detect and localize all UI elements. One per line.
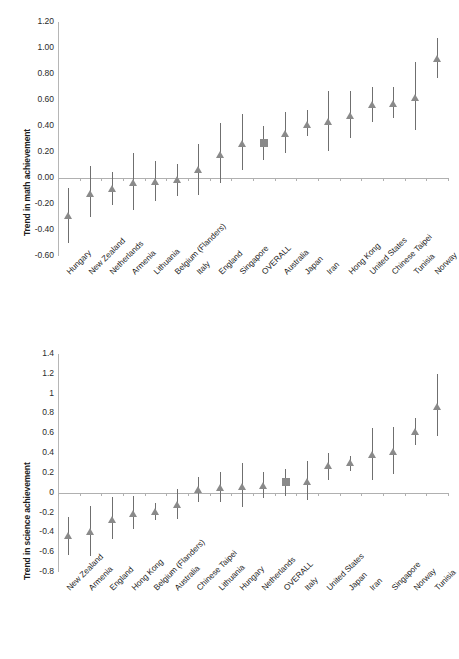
data-point-marker-triangle <box>303 478 311 485</box>
x-axis-tick <box>448 493 449 496</box>
x-axis-tick <box>210 178 211 181</box>
data-point-marker-triangle <box>433 55 441 62</box>
x-axis-tick <box>231 493 232 496</box>
x-axis-tick <box>296 178 297 181</box>
plot-area-math <box>0 0 456 276</box>
x-axis-tick <box>340 493 341 496</box>
x-axis-tick <box>101 493 102 496</box>
x-axis-tick <box>210 493 211 496</box>
x-axis-tick <box>448 178 449 181</box>
x-axis-tick <box>383 493 384 496</box>
data-point-marker-triangle <box>368 451 376 458</box>
x-axis-category-label: Italy <box>195 260 212 277</box>
x-axis-tick <box>361 178 362 181</box>
data-point-marker-triangle <box>129 510 137 517</box>
chart-panel-science: Trend in science achievement 1.41.210.80… <box>0 330 456 659</box>
data-point-marker-triangle <box>216 151 224 158</box>
x-axis-tick <box>58 493 59 496</box>
data-point-marker-triangle <box>389 100 397 107</box>
data-point-marker-triangle <box>194 166 202 173</box>
x-axis-category-label: Iran <box>325 260 341 276</box>
data-point-marker-triangle <box>433 403 441 410</box>
data-point-marker-triangle <box>411 94 419 101</box>
data-point-marker-triangle <box>324 118 332 125</box>
x-axis-tick <box>123 178 124 181</box>
data-point-marker-triangle <box>389 448 397 455</box>
data-point-marker-triangle <box>411 428 419 435</box>
data-point-marker-triangle <box>151 178 159 185</box>
x-axis-tick <box>340 178 341 181</box>
x-axis-tick <box>80 493 81 496</box>
x-axis-tick <box>275 178 276 181</box>
x-axis-tick <box>188 178 189 181</box>
data-point-marker-triangle <box>86 528 94 535</box>
x-axis-tick <box>361 493 362 496</box>
data-point-marker-triangle <box>346 112 354 119</box>
x-axis-tick <box>405 493 406 496</box>
x-axis-tick <box>253 178 254 181</box>
data-point-marker-triangle <box>259 482 267 489</box>
x-axis-tick <box>383 178 384 181</box>
data-point-marker-triangle <box>64 212 72 219</box>
x-axis-tick <box>80 178 81 181</box>
data-point-marker-triangle <box>324 462 332 469</box>
x-axis-tick <box>296 493 297 496</box>
x-axis-tick <box>166 178 167 181</box>
x-axis-tick <box>405 178 406 181</box>
chart-panel-math: Trend in math achievement 1.201.000.800.… <box>0 0 456 330</box>
x-axis-tick <box>188 493 189 496</box>
data-point-marker-triangle <box>238 483 246 490</box>
x-axis-tick <box>58 178 59 181</box>
data-point-marker-triangle <box>108 516 116 523</box>
data-point-marker-square <box>260 139 268 147</box>
data-point-marker-triangle <box>108 185 116 192</box>
data-point-marker-triangle <box>129 179 137 186</box>
x-axis-tick <box>101 178 102 181</box>
x-axis-tick <box>275 493 276 496</box>
data-point-marker-triangle <box>151 508 159 515</box>
x-axis-tick <box>166 493 167 496</box>
data-point-marker-triangle <box>173 176 181 183</box>
data-series-math <box>0 0 456 276</box>
x-axis-category-label: Italy <box>303 576 320 593</box>
x-axis-labels-science: New ZealandArmeniaEnglandHong KongBelgiu… <box>0 578 456 658</box>
x-axis-tick <box>231 178 232 181</box>
x-axis-tick <box>123 493 124 496</box>
data-point-marker-triangle <box>86 190 94 197</box>
x-axis-tick <box>318 493 319 496</box>
data-point-marker-triangle <box>346 459 354 466</box>
x-axis-tick <box>318 178 319 181</box>
data-point-marker-triangle <box>64 532 72 539</box>
x-axis-category-label: Iran <box>368 576 384 592</box>
data-point-marker-triangle <box>173 501 181 508</box>
data-point-marker-triangle <box>303 121 311 128</box>
data-point-marker-triangle <box>368 101 376 108</box>
x-axis-tick <box>426 493 427 496</box>
data-point-marker-triangle <box>238 140 246 147</box>
x-axis-tick <box>253 493 254 496</box>
x-axis-tick <box>145 178 146 181</box>
x-axis-tick <box>426 178 427 181</box>
data-point-marker-triangle <box>216 484 224 491</box>
data-point-marker-triangle <box>194 486 202 493</box>
data-point-marker-square <box>282 478 290 486</box>
x-axis-tick <box>145 493 146 496</box>
data-point-marker-triangle <box>281 130 289 137</box>
